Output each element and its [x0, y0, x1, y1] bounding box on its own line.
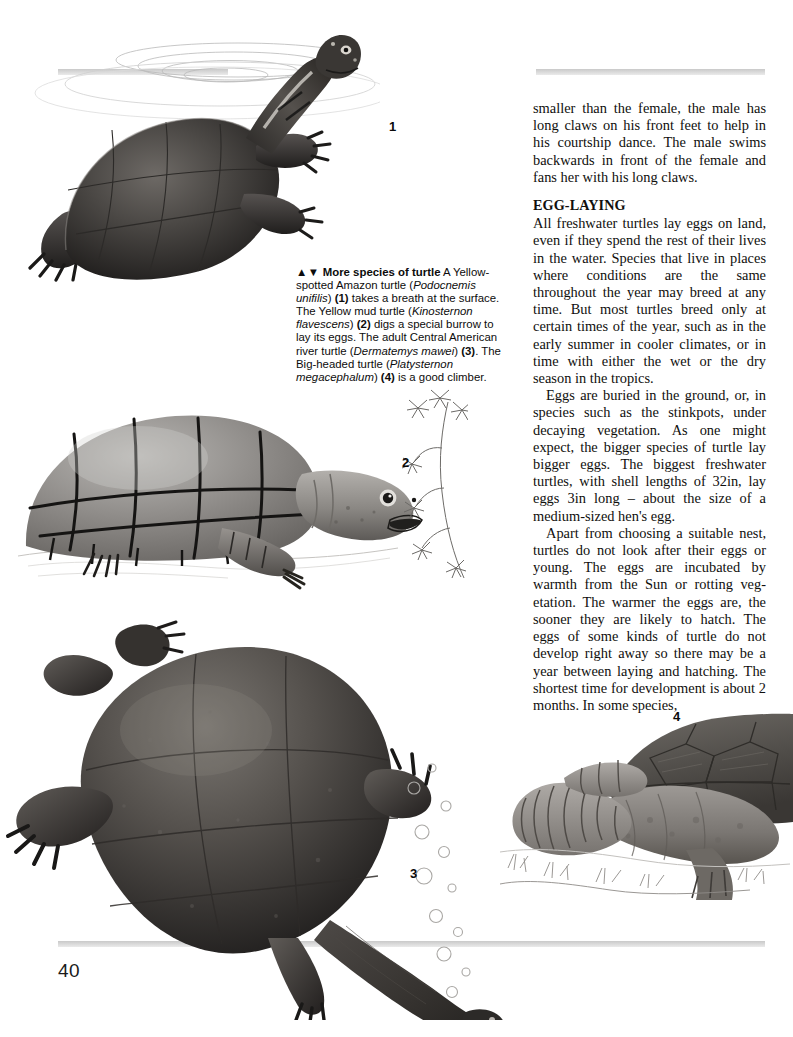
figure-label-2: 2 [402, 455, 409, 470]
caption-lead-in: More species of turtle [323, 266, 441, 278]
figure-2-mud-turtle [18, 388, 468, 618]
figure-1-amazon-turtle [20, 18, 380, 303]
top-right-rule [536, 69, 765, 75]
paragraph-continued: smaller than the female, the male has lo… [533, 100, 766, 186]
article-body-column: smaller than the female, the male has lo… [533, 100, 766, 714]
figure-label-1: 1 [389, 119, 396, 134]
caption-body: A Yellow-spotted Amazon turtle (Podocnem… [296, 266, 501, 383]
triangle-markers-icon: ▲▼ [296, 266, 320, 278]
page-number: 40 [58, 960, 80, 982]
paragraph-egg-laying-2: Eggs are buried in the ground, or, in sp… [533, 387, 766, 525]
paragraph-egg-laying-3: Apart from choosing a suitable nest, tur… [533, 525, 766, 714]
figure-4-big-headed-turtle [500, 700, 793, 900]
figure-label-3: 3 [410, 866, 417, 881]
section-heading-egg-laying: EGG-LAYING [533, 197, 766, 214]
figure-caption: ▲▼ More species of turtle A Yellow-spott… [296, 266, 507, 384]
paragraph-egg-laying-1: All freshwater turtles lay eggs on land,… [533, 215, 766, 387]
book-page: 1 [0, 0, 793, 1037]
